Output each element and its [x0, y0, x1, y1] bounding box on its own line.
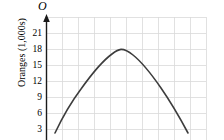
orange-production-chart: O Oranges (1,000s) 21 18 15 12 9 6 3 [0, 0, 224, 140]
parabola-curve [55, 49, 188, 133]
grid-vertical [62, 17, 206, 140]
plot-area [0, 0, 224, 140]
y-axis-arrow-icon [43, 14, 50, 22]
